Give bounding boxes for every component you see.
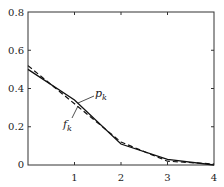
y-tick-0.8: 0.8 — [8, 7, 24, 18]
series-f-k — [28, 66, 214, 164]
x-tick-2: 2 — [118, 172, 124, 183]
x-tick-3: 3 — [164, 172, 170, 183]
y-tick-0.2: 0.2 — [8, 121, 24, 132]
f-k-label: fk — [62, 118, 72, 133]
series-p-k — [28, 69, 214, 165]
line-chart: 0 0.2 0.4 0.6 0.8 1 2 3 4 pk fk — [0, 0, 224, 187]
y-tick-0.4: 0.4 — [8, 83, 24, 94]
f-k-leader — [72, 106, 78, 118]
y-tick-0.6: 0.6 — [8, 45, 24, 56]
x-tick-1: 1 — [71, 172, 77, 183]
x-tick-4: 4 — [211, 172, 217, 183]
p-k-label: pk — [95, 87, 107, 102]
y-tick-0: 0 — [18, 159, 24, 170]
p-k-leader — [78, 96, 94, 103]
